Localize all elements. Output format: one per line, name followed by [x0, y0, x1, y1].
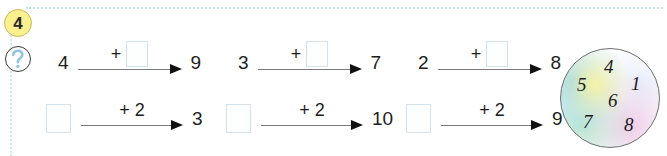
p4-arrow-label: + 2	[81, 98, 183, 122]
worksheet-page: 4 4 + 9 3 +	[0, 0, 667, 156]
p4-arrow-line	[81, 120, 183, 131]
p6-arrow-head	[531, 120, 543, 130]
p5-result-value: 10	[372, 109, 393, 128]
p3-arrow-label: +	[438, 42, 542, 66]
p4-start-input[interactable]	[46, 104, 71, 133]
p4-operand: 2	[135, 101, 145, 119]
p6-arrow-shaft	[441, 125, 532, 126]
p4-result-value: 3	[192, 109, 203, 128]
p3-operator: +	[471, 45, 482, 63]
problem-p2: 3 + 7	[238, 42, 381, 82]
p1-arrow-label: +	[78, 42, 182, 66]
bubble-number-6[interactable]: 6	[608, 91, 618, 110]
problem-p6: + 2 9	[406, 98, 563, 138]
p3-arrow-shaft	[438, 69, 531, 70]
p5-arrow-label: + 2	[261, 98, 363, 122]
bubble-number-1[interactable]: 1	[631, 74, 641, 93]
p4-arrow-head	[171, 120, 183, 130]
dotted-rule-top	[26, 7, 663, 9]
p2-arrow: +	[258, 42, 362, 82]
hint-badge[interactable]	[5, 46, 31, 72]
problem-p3: 2 + 8	[418, 42, 561, 82]
bubble-number-4[interactable]: 4	[604, 57, 614, 76]
bubble-number-8[interactable]: 8	[624, 115, 634, 134]
exercise-number-badge: 4	[4, 9, 32, 37]
p4-operator: +	[119, 101, 130, 119]
problem-p5: + 2 10	[226, 98, 393, 138]
p2-arrow-line	[258, 64, 362, 75]
p3-start-value: 2	[418, 53, 429, 72]
p2-arrow-head	[350, 64, 362, 74]
problem-p1: 4 + 9	[58, 42, 201, 82]
p3-arrow-line	[438, 64, 542, 75]
p2-operator: +	[291, 45, 302, 63]
p5-operand: 2	[315, 101, 325, 119]
p6-start-input[interactable]	[406, 104, 431, 133]
p1-arrow-shaft	[78, 69, 171, 70]
number-choices-bubble: 4 5 1 6 7 8	[560, 48, 660, 148]
p1-result-value: 9	[191, 53, 202, 72]
p3-arrow: +	[438, 42, 542, 82]
p2-arrow-label: +	[258, 42, 362, 66]
exercise-number-label: 4	[13, 15, 22, 32]
p6-arrow: + 2	[441, 98, 543, 138]
p4-arrow: + 2	[81, 98, 183, 138]
question-mark-icon	[9, 49, 27, 69]
p2-start-value: 3	[238, 53, 249, 72]
p2-result-value: 7	[371, 53, 382, 72]
p1-arrow-line	[78, 64, 182, 75]
p5-start-input[interactable]	[226, 104, 251, 133]
p1-arrow-head	[170, 64, 182, 74]
p1-arrow: +	[78, 42, 182, 82]
p5-arrow-head	[351, 120, 363, 130]
problem-p4: + 2 3	[46, 98, 203, 138]
p5-arrow-shaft	[261, 125, 352, 126]
bubble-number-5[interactable]: 5	[577, 75, 587, 94]
p6-operator: +	[479, 101, 490, 119]
bubble-number-7[interactable]: 7	[583, 112, 593, 131]
p6-arrow-line	[441, 120, 543, 131]
p6-arrow-label: + 2	[441, 98, 543, 122]
p3-arrow-head	[530, 64, 542, 74]
p1-start-value: 4	[58, 53, 69, 72]
p5-operator: +	[299, 101, 310, 119]
p1-operator: +	[111, 45, 122, 63]
p5-arrow-line	[261, 120, 363, 131]
p2-arrow-shaft	[258, 69, 351, 70]
p5-arrow: + 2	[261, 98, 363, 138]
p4-arrow-shaft	[81, 125, 172, 126]
p6-operand: 2	[495, 101, 505, 119]
